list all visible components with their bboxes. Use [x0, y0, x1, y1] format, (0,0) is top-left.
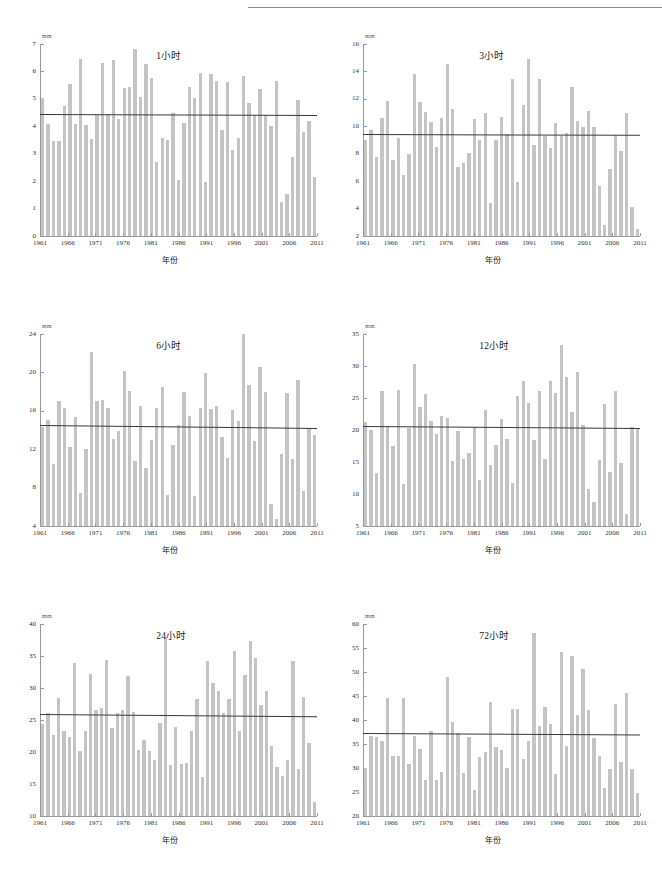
bar — [74, 124, 77, 236]
bar — [380, 118, 383, 236]
x-tick-label: 2011 — [626, 239, 654, 247]
bar — [565, 133, 568, 236]
bar — [505, 768, 508, 816]
bar — [429, 122, 432, 236]
bar — [188, 87, 191, 236]
bar — [456, 431, 459, 526]
y-tick-mark — [41, 334, 44, 335]
bar — [489, 203, 492, 236]
bar — [63, 106, 66, 236]
y-tick-label: 10 — [333, 491, 359, 498]
x-tick-mark — [446, 523, 447, 526]
bar — [402, 698, 405, 816]
y-tick-label: 35 — [10, 653, 36, 660]
x-tick-label: 2001 — [248, 529, 276, 537]
x-tick-label: 2006 — [598, 819, 626, 827]
bar — [619, 151, 622, 236]
y-tick-mark — [364, 526, 367, 527]
x-tick-mark — [40, 813, 41, 816]
bar — [489, 702, 492, 816]
y-axis-unit-label: mm — [42, 323, 52, 330]
x-tick-mark — [391, 813, 392, 816]
bar — [364, 422, 367, 526]
bar — [592, 127, 595, 236]
bar — [275, 81, 278, 236]
bar — [413, 74, 416, 236]
bar — [166, 495, 169, 526]
x-axis-label: 年份 — [8, 544, 331, 555]
bar — [57, 401, 60, 526]
y-tick-label: 45 — [333, 693, 359, 700]
x-tick-label: 1971 — [81, 529, 109, 537]
x-tick-mark — [234, 813, 235, 816]
x-tick-label: 2011 — [626, 819, 654, 827]
x-tick-label: 1991 — [515, 819, 543, 827]
bar — [258, 89, 261, 236]
bar — [307, 428, 310, 526]
bar — [554, 123, 557, 236]
bar — [259, 705, 262, 816]
bar — [462, 459, 465, 526]
x-tick-label: 1981 — [137, 819, 165, 827]
bar — [116, 713, 119, 816]
bar — [68, 84, 71, 236]
bar — [233, 651, 236, 816]
y-tick-mark — [41, 71, 44, 72]
y-tick-label: 35 — [333, 331, 359, 338]
x-tick-mark — [234, 233, 235, 236]
x-tick-mark — [363, 813, 364, 816]
bar — [543, 136, 546, 236]
bar — [128, 87, 131, 236]
x-tick-label: 1976 — [432, 529, 460, 537]
bar — [418, 749, 421, 816]
bar — [204, 182, 207, 236]
x-tick-mark — [68, 523, 69, 526]
y-tick-label: 12 — [10, 446, 36, 453]
x-tick-label: 1996 — [220, 529, 248, 537]
x-tick-label: 1981 — [460, 529, 488, 537]
bar — [121, 710, 124, 816]
bar — [375, 737, 378, 816]
chart-panel-3小时: mm24681012141619611966197119761981198619… — [331, 22, 654, 290]
x-tick-label: 1961 — [349, 819, 377, 827]
x-tick-label: 1996 — [220, 819, 248, 827]
x-tick-mark — [529, 523, 530, 526]
y-tick-mark — [41, 656, 44, 657]
bar — [630, 427, 633, 526]
x-tick-label: 1966 — [377, 529, 405, 537]
bar — [369, 736, 372, 816]
x-axis-line — [40, 526, 317, 527]
x-tick-label: 1991 — [515, 239, 543, 247]
y-tick-mark — [364, 99, 367, 100]
bar — [554, 393, 557, 526]
bar — [636, 229, 639, 236]
bar — [391, 756, 394, 816]
bar — [57, 141, 60, 236]
bar — [603, 225, 606, 236]
bar — [418, 102, 421, 236]
bar — [206, 661, 209, 816]
y-tick-mark — [41, 720, 44, 721]
bar — [592, 738, 595, 816]
bar — [52, 141, 55, 236]
bar — [451, 461, 454, 526]
bar — [128, 391, 131, 526]
bar — [302, 491, 305, 526]
bar — [307, 121, 310, 236]
bar — [84, 125, 87, 236]
chart-panel-12小时: mm51015202530351961196619711976198119861… — [331, 312, 654, 580]
x-tick-mark — [179, 233, 180, 236]
x-tick-mark — [68, 233, 69, 236]
x-tick-label: 1996 — [220, 239, 248, 247]
x-tick-label: 1986 — [488, 529, 516, 537]
x-tick-mark — [262, 813, 263, 816]
bar — [199, 73, 202, 236]
x-tick-label: 1966 — [377, 239, 405, 247]
bar — [614, 704, 617, 816]
bar — [467, 453, 470, 526]
x-tick-label: 1961 — [26, 529, 54, 537]
bar — [150, 78, 153, 236]
bar — [538, 726, 541, 816]
chart-panel-1小时: mm01234567196119661971197619811986199119… — [8, 22, 331, 290]
bar — [105, 660, 108, 816]
